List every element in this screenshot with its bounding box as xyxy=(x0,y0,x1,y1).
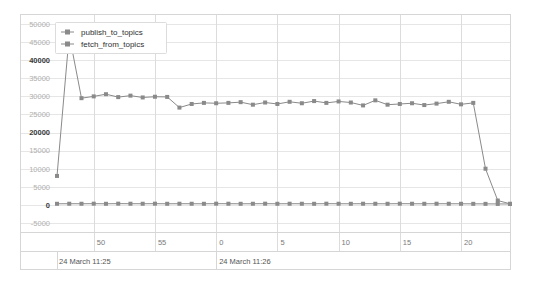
data-point-marker[interactable] xyxy=(190,102,194,106)
series-publish_to_topics xyxy=(55,33,512,206)
chart-legend[interactable]: publish_to_topicsfetch_from_topics xyxy=(56,23,167,54)
data-point-marker[interactable] xyxy=(324,202,328,206)
yaxis-tick-label: 45000 xyxy=(29,38,50,47)
chart-container: 5000045000400003500030000250002000015000… xyxy=(0,0,536,284)
yaxis-tick-label: 15000 xyxy=(29,146,50,155)
data-point-marker[interactable] xyxy=(312,202,316,206)
series-layer xyxy=(55,33,512,206)
data-point-marker[interactable] xyxy=(116,95,120,99)
data-point-marker[interactable] xyxy=(337,99,341,103)
data-point-marker[interactable] xyxy=(435,202,439,206)
data-point-marker[interactable] xyxy=(263,101,267,105)
data-point-marker[interactable] xyxy=(410,202,414,206)
data-point-marker[interactable] xyxy=(141,202,145,206)
xaxis-range-label: 24 March 11:25 xyxy=(59,257,111,266)
data-point-marker[interactable] xyxy=(202,101,206,105)
data-point-marker[interactable] xyxy=(263,202,267,206)
data-point-marker[interactable] xyxy=(386,103,390,107)
data-point-marker[interactable] xyxy=(177,106,181,110)
legend-item-label[interactable]: fetch_from_topics xyxy=(81,40,144,49)
data-point-marker[interactable] xyxy=(447,100,451,104)
data-point-marker[interactable] xyxy=(226,101,230,105)
data-point-marker[interactable] xyxy=(128,94,132,98)
data-point-marker[interactable] xyxy=(435,102,439,106)
data-point-marker[interactable] xyxy=(300,202,304,206)
data-point-marker[interactable] xyxy=(288,202,292,206)
data-point-marker[interactable] xyxy=(239,100,243,104)
data-point-marker[interactable] xyxy=(116,202,120,206)
data-point-marker[interactable] xyxy=(484,167,488,171)
data-point-marker[interactable] xyxy=(275,102,279,106)
data-point-marker[interactable] xyxy=(226,202,230,206)
data-point-marker[interactable] xyxy=(153,202,157,206)
data-point-marker[interactable] xyxy=(251,103,255,107)
data-point-marker[interactable] xyxy=(214,202,218,206)
data-point-marker[interactable] xyxy=(324,101,328,105)
yaxis-tick-label: 10000 xyxy=(29,165,50,174)
data-point-marker[interactable] xyxy=(373,202,377,206)
data-point-marker[interactable] xyxy=(104,92,108,96)
xaxis-range-labels: 24 March 11:2524 March 11:26 xyxy=(58,252,271,269)
data-point-marker[interactable] xyxy=(239,202,243,206)
data-point-marker[interactable] xyxy=(92,202,96,206)
yaxis-tick-label: 35000 xyxy=(29,74,50,83)
data-point-marker[interactable] xyxy=(67,202,71,206)
data-point-marker[interactable] xyxy=(447,202,451,206)
xaxis-tick-label: 10 xyxy=(342,238,350,247)
yaxis-tick-label: 50000 xyxy=(29,20,50,29)
data-point-marker[interactable] xyxy=(337,202,341,206)
legend-marker-icon xyxy=(65,30,70,35)
data-point-marker[interactable] xyxy=(190,202,194,206)
data-point-marker[interactable] xyxy=(79,96,83,100)
data-point-marker[interactable] xyxy=(349,101,353,105)
data-point-marker[interactable] xyxy=(410,101,414,105)
data-point-marker[interactable] xyxy=(55,202,59,206)
data-point-marker[interactable] xyxy=(251,202,255,206)
xaxis-range-label: 24 March 11:26 xyxy=(219,257,271,266)
data-point-marker[interactable] xyxy=(128,202,132,206)
legend-marker-icon xyxy=(65,42,70,47)
data-point-marker[interactable] xyxy=(214,101,218,105)
data-point-marker[interactable] xyxy=(361,202,365,206)
xaxis-tick-label: 15 xyxy=(403,238,411,247)
data-point-marker[interactable] xyxy=(275,202,279,206)
data-point-marker[interactable] xyxy=(92,94,96,98)
data-point-marker[interactable] xyxy=(177,202,181,206)
data-point-marker[interactable] xyxy=(55,174,59,178)
data-point-marker[interactable] xyxy=(165,202,169,206)
data-point-marker[interactable] xyxy=(471,101,475,105)
yaxis-tick-label: -5000 xyxy=(31,219,50,228)
xaxis-tick-label: 20 xyxy=(464,238,472,247)
xaxis-tick-labels: 505505101520 xyxy=(97,238,473,247)
yaxis-tick-label: 40000 xyxy=(29,56,50,65)
data-point-marker[interactable] xyxy=(508,202,512,206)
data-point-marker[interactable] xyxy=(459,102,463,106)
data-point-marker[interactable] xyxy=(141,95,145,99)
data-point-marker[interactable] xyxy=(422,103,426,107)
data-point-marker[interactable] xyxy=(79,202,83,206)
data-point-marker[interactable] xyxy=(496,202,500,206)
legend-item-label[interactable]: publish_to_topics xyxy=(81,28,143,37)
data-point-marker[interactable] xyxy=(104,202,108,206)
data-point-marker[interactable] xyxy=(202,202,206,206)
data-point-marker[interactable] xyxy=(349,202,353,206)
data-point-marker[interactable] xyxy=(153,95,157,99)
data-point-marker[interactable] xyxy=(165,95,169,99)
data-point-marker[interactable] xyxy=(471,202,475,206)
data-point-marker[interactable] xyxy=(459,202,463,206)
data-point-marker[interactable] xyxy=(484,202,488,206)
data-point-marker[interactable] xyxy=(312,99,316,103)
data-point-marker[interactable] xyxy=(398,102,402,106)
data-point-marker[interactable] xyxy=(386,202,390,206)
data-point-marker[interactable] xyxy=(288,100,292,104)
yaxis-tick-label: 5000 xyxy=(33,183,50,192)
data-point-marker[interactable] xyxy=(300,101,304,105)
xaxis-tick-label: 50 xyxy=(97,238,105,247)
yaxis-tick-label: 25000 xyxy=(29,110,50,119)
data-point-marker[interactable] xyxy=(398,202,402,206)
data-point-marker[interactable] xyxy=(361,103,365,107)
xaxis-tick-label: 55 xyxy=(158,238,166,247)
data-point-marker[interactable] xyxy=(422,202,426,206)
data-point-marker[interactable] xyxy=(373,98,377,102)
line-chart: 5000045000400003500030000250002000015000… xyxy=(0,0,536,284)
